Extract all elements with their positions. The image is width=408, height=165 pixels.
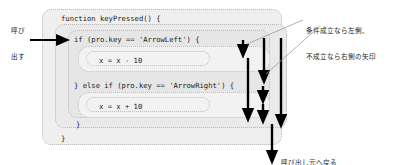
outer-close-brace-code: } xyxy=(61,134,65,143)
if-statement-code: x = x - 10 xyxy=(99,56,142,65)
else-if-statement-code: x = x + 10 xyxy=(99,102,142,111)
return-label-line-1: 呼び出し元へ戻る xyxy=(281,159,337,165)
call-label-line-2: 出す xyxy=(11,53,25,62)
condition-label-line-2: 不成立なら右側の矢印 xyxy=(306,53,376,62)
code-flow-diagram: function keyPressed() { if (pro.key == '… xyxy=(0,0,408,165)
if-header-code: if (pro.key == 'ArrowLeft') { xyxy=(74,35,200,44)
call-label-line-1: 呼び xyxy=(11,27,25,36)
condition-label: 条件成立なら左側、 不成立なら右側の矢印 xyxy=(306,10,376,79)
else-if-header-code: } else if (pro.key == 'ArrowRight') { xyxy=(74,81,234,90)
function-header-code: function keyPressed() { xyxy=(61,14,161,23)
condition-label-line-1: 条件成立なら左側、 xyxy=(306,27,376,36)
call-label: 呼び 出す xyxy=(11,10,25,79)
return-label: 呼び出し元へ戻る xyxy=(281,142,337,165)
inner-close-brace-code: } xyxy=(76,120,80,129)
